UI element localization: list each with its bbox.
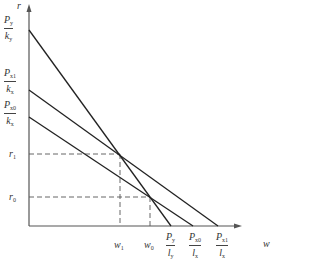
label-r0: r0 <box>9 192 16 203</box>
label-py-over-ky: Py ky <box>4 14 13 42</box>
label-py-over-ly: Py ly <box>166 231 175 259</box>
px0-line <box>29 117 193 226</box>
wage-rent-diagram <box>0 0 310 264</box>
label-w0: w0 <box>144 240 154 251</box>
label-w1: w1 <box>114 240 124 251</box>
label-px1-over-kx: Px1 kx <box>4 67 16 95</box>
label-px0-over-kx: Px0 kx <box>4 99 16 127</box>
x-axis-arrow-icon <box>234 224 242 229</box>
label-px1-over-lx: Px1 lx <box>216 231 228 259</box>
y-axis-arrow-icon <box>27 4 32 12</box>
y-axis-label: r <box>17 1 21 11</box>
x-axis-label: w <box>263 239 270 249</box>
px1-line <box>29 90 218 226</box>
label-r1: r1 <box>9 149 16 160</box>
label-px0-over-lx: Px0 lx <box>189 231 201 259</box>
